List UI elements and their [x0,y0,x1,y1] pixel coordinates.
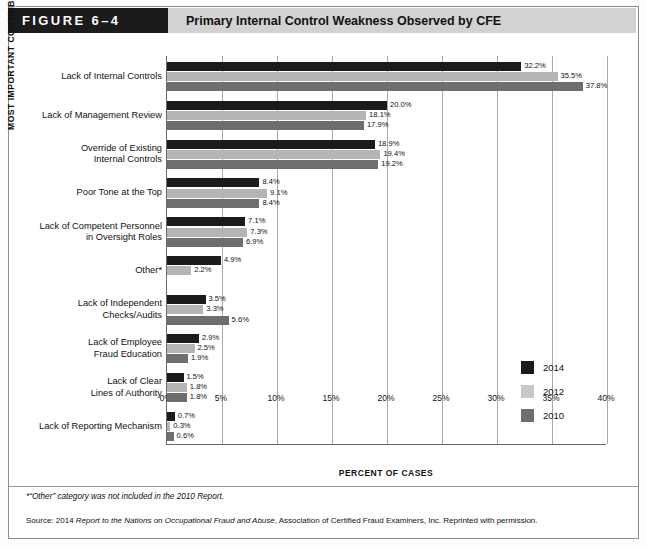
bar-row: 9.1% [167,189,607,198]
bar-2012[interactable] [167,266,191,275]
bar-2012[interactable] [167,383,187,392]
bar-2014[interactable] [167,217,245,226]
bar-2010[interactable] [167,316,229,325]
bar-value-label: 20.0% [387,100,412,109]
bar-row: 35.5% [167,72,607,81]
category-group: Lack of Competent Personnel in Oversight… [0,217,606,246]
bar-value-label: 7.1% [245,216,265,225]
bar-row: 18.9% [167,140,607,149]
bar-2010[interactable] [167,393,187,402]
bar-value-label: 8.4% [259,198,279,207]
legend-item[interactable]: 2010 [521,409,601,422]
bar-2010[interactable] [167,238,243,247]
source-title-1: Report to the Nations [76,516,152,525]
bar-2014[interactable] [167,140,375,149]
source-suffix: , Association of Certified Fraud Examine… [275,516,538,525]
category-group: Lack of Internal Controls32.2%35.5%37.8% [0,62,606,91]
bar-value-label: 8.4% [259,177,279,186]
bar-value-label: 17.9% [364,120,389,129]
bar-value-label: 1.5% [184,372,204,381]
bar-2010[interactable] [167,432,174,441]
bar-value-label: 5.6% [229,315,249,324]
bar-row: 17.9% [167,121,607,130]
bar-row: 3.3% [167,305,607,314]
category-group: Poor Tone at the Top8.4%9.1%8.4% [0,178,606,207]
bar-row: 19.4% [167,150,607,159]
bar-2012[interactable] [167,305,203,314]
bar-row: 2.5% [167,344,607,353]
bar-2012[interactable] [167,344,195,353]
footer-divider [9,486,638,487]
legend-item[interactable]: 2014 [521,361,601,374]
bar-row: 3.5% [167,295,607,304]
bar-2014[interactable] [167,178,259,187]
bar-value-label: 2.9% [199,333,219,342]
bar-row: 32.2% [167,62,607,71]
chart-legend: 201420122010 [521,361,601,433]
bar-value-label: 2.5% [195,343,215,352]
bar-value-label: 0.6% [174,431,194,440]
bar-2014[interactable] [167,295,206,304]
bar-value-label: 19.2% [378,159,403,168]
bar-row: 0.6% [167,432,607,441]
legend-swatch-2010 [521,409,534,422]
bar-2014[interactable] [167,373,184,382]
category-label: Poor Tone at the Top [2,187,162,199]
bar-value-label: 37.8% [583,81,608,90]
bar-2010[interactable] [167,121,364,130]
bar-2014[interactable] [167,412,175,421]
bar-row: 20.0% [167,101,607,110]
source-note: Source: 2014 Report to the Nations on Oc… [26,516,626,525]
bar-row: 2.9% [167,334,607,343]
plot-wrapper: 0%5%10%15%20%25%30%35%40% Lack of Intern… [0,0,647,547]
legend-item[interactable]: 2012 [521,385,601,398]
bar-2010[interactable] [167,82,583,91]
bar-2012[interactable] [167,228,247,237]
bar-row: 8.4% [167,199,607,208]
bar-2014[interactable] [167,101,387,110]
category-group: Override of Existing Internal Controls18… [0,140,606,169]
source-mid: on [151,516,164,525]
bar-value-label: 4.9% [221,255,241,264]
category-label: Other* [2,265,162,277]
bar-row: 19.2% [167,160,607,169]
bar-2012[interactable] [167,111,366,120]
bar-2010[interactable] [167,160,378,169]
figure-container: FIGURE 6–4 Primary Internal Control Weak… [0,0,647,547]
bar-value-label: 0.3% [170,421,190,430]
bar-row: 2.2% [167,266,607,275]
bar-value-label: 18.9% [375,139,400,148]
bar-row: 6.9% [167,238,607,247]
bar-value-label: 7.3% [247,227,267,236]
legend-label: 2012 [543,386,564,397]
bar-2010[interactable] [167,354,188,363]
gridline [607,56,608,444]
bar-2014[interactable] [167,62,521,71]
category-label: Lack of Employee Fraud Education [2,337,162,360]
bar-2014[interactable] [167,334,199,343]
bar-value-label: 1.8% [187,382,207,391]
bar-value-label: 2.2% [191,265,211,274]
bar-row: 7.1% [167,217,607,226]
category-group: Lack of Independent Checks/Audits3.5%3.3… [0,295,606,324]
bar-row: 8.4% [167,178,607,187]
bar-2012[interactable] [167,189,267,198]
legend-label: 2010 [543,410,564,421]
source-title-2: Occupational Fraud and Abuse [165,516,275,525]
bar-value-label: 0.7% [175,411,195,420]
bar-value-label: 3.5% [206,294,226,303]
bar-2012[interactable] [167,150,380,159]
bar-row: 4.9% [167,256,607,265]
bar-2014[interactable] [167,256,221,265]
source-prefix: Source: 2014 [26,516,76,525]
category-label: Lack of Competent Personnel in Oversight… [2,221,162,244]
category-group: Other*4.9%2.2% [0,256,606,285]
category-group: Lack of Employee Fraud Education2.9%2.5%… [0,334,606,363]
bar-value-label: 1.8% [187,392,207,401]
bar-2012[interactable] [167,72,558,81]
category-label: Lack of Reporting Mechanism [2,421,162,433]
footnote-other: *“Other” category was not included in th… [26,492,224,501]
category-group: Lack of Management Review20.0%18.1%17.9% [0,101,606,130]
bar-2010[interactable] [167,199,259,208]
bar-value-label: 9.1% [267,188,287,197]
